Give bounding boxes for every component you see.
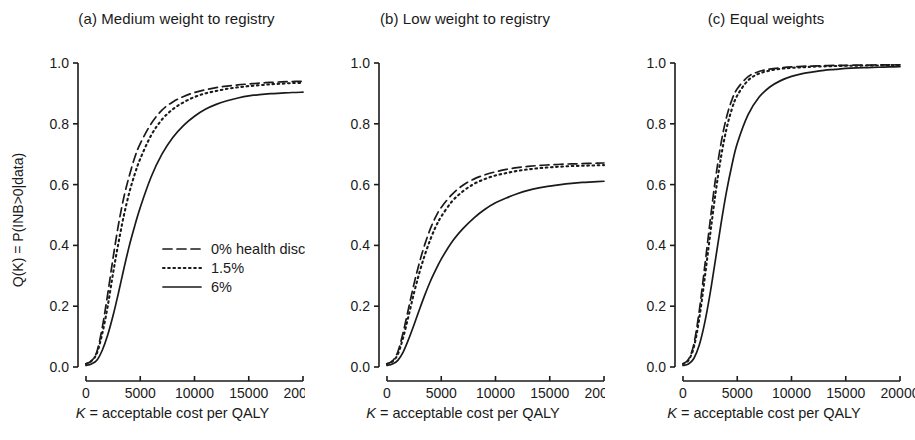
x-tick-label: 10000	[175, 385, 214, 400]
y-tick-label: 1.0	[647, 55, 667, 71]
x-tick-label: 10000	[772, 385, 811, 400]
y-tick-label: 0.6	[50, 177, 70, 193]
y-tick-label: 1.0	[351, 55, 371, 71]
y-tick-label: 0.8	[50, 116, 70, 132]
x-tick-label: 5000	[426, 385, 457, 400]
curve-dashed	[86, 81, 303, 364]
panel-a: (a) Medium weight to registry Q(K) = P(I…	[0, 0, 305, 440]
y-tick-label: 0.2	[50, 298, 70, 314]
x-label-symbol: K	[366, 405, 376, 421]
y-tick-label: 0.4	[351, 237, 371, 253]
y-tick-label: 0.0	[50, 359, 70, 375]
x-label-rest: = acceptable cost per QALY	[376, 405, 560, 421]
x-label-rest: = acceptable cost per QALY	[677, 405, 861, 421]
figure-container: (a) Medium weight to registry Q(K) = P(I…	[0, 0, 915, 440]
panel-c-plot: 0.00.20.40.60.81.005000100001500020000	[605, 0, 915, 400]
y-tick-label: 0.2	[647, 298, 667, 314]
panel-c: (c) Equal weights 0.00.20.40.60.81.00500…	[605, 0, 915, 440]
y-tick-label: 0.0	[351, 359, 371, 375]
x-tick-label: 20000	[585, 385, 605, 400]
x-tick-label: 15000	[826, 385, 865, 400]
curve-dotted	[683, 65, 900, 364]
curve-solid	[683, 67, 900, 366]
x-label-symbol: K	[76, 405, 86, 421]
y-tick-label: 0.4	[50, 237, 70, 253]
x-tick-label: 10000	[476, 385, 515, 400]
x-tick-label: 15000	[229, 385, 268, 400]
y-tick-label: 1.0	[50, 55, 70, 71]
x-tick-label: 0	[679, 385, 687, 400]
panel-a-x-axis-label: K = acceptable cost per QALY	[0, 405, 325, 421]
y-tick-label: 0.2	[351, 298, 371, 314]
panel-c-x-axis-label: K = acceptable cost per QALY	[605, 405, 915, 421]
x-label-symbol: K	[667, 405, 677, 421]
x-tick-label: 5000	[125, 385, 156, 400]
curve-dashed	[683, 65, 900, 364]
y-tick-label: 0.0	[647, 359, 667, 375]
x-label-rest: = acceptable cost per QALY	[85, 405, 269, 421]
y-tick-label: 0.8	[351, 116, 371, 132]
x-tick-label: 20000	[881, 385, 915, 400]
legend-label: 0% health discount	[211, 241, 305, 257]
y-tick-label: 0.4	[647, 237, 667, 253]
panel-b-plot: 0.00.20.40.60.81.005000100001500020000	[305, 0, 605, 400]
curve-dashed	[387, 163, 604, 364]
x-tick-label: 0	[383, 385, 391, 400]
legend-label: 6%	[211, 279, 232, 295]
y-tick-label: 0.6	[351, 177, 371, 193]
x-tick-label: 5000	[722, 385, 753, 400]
y-tick-label: 0.6	[647, 177, 667, 193]
legend-label: 1.5%	[211, 260, 244, 276]
panel-b: (b) Low weight to registry 0.00.20.40.60…	[305, 0, 605, 440]
x-tick-label: 15000	[530, 385, 569, 400]
x-tick-label: 20000	[284, 385, 305, 400]
y-tick-label: 0.8	[647, 116, 667, 132]
panel-a-plot: 0.00.20.40.60.81.0050001000015000200000%…	[0, 0, 305, 400]
panel-b-x-axis-label: K = acceptable cost per QALY	[305, 405, 613, 421]
x-tick-label: 0	[82, 385, 90, 400]
